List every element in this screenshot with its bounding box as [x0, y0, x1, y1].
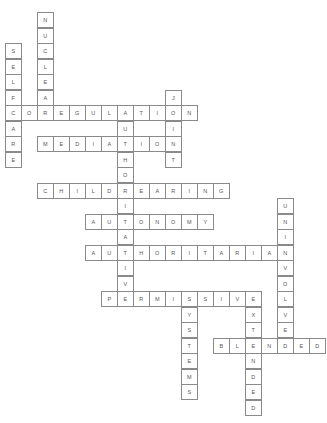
- crossword-cell[interactable]: R: [133, 291, 150, 307]
- crossword-cell[interactable]: I: [181, 245, 198, 261]
- crossword-cell[interactable]: A: [101, 136, 118, 152]
- crossword-cell[interactable]: T: [133, 105, 150, 121]
- crossword-cell[interactable]: Y: [181, 307, 198, 323]
- crossword-cell[interactable]: D: [245, 400, 262, 416]
- crossword-cell[interactable]: E: [133, 183, 150, 199]
- crossword-cell[interactable]: N: [261, 338, 278, 354]
- crossword-cell[interactable]: U: [85, 105, 102, 121]
- crossword-cell[interactable]: N: [277, 214, 294, 230]
- crossword-cell[interactable]: T: [165, 152, 182, 168]
- crossword-cell[interactable]: C: [5, 105, 22, 121]
- crossword-cell[interactable]: V: [229, 291, 246, 307]
- crossword-cell[interactable]: A: [149, 183, 166, 199]
- crossword-cell[interactable]: E: [245, 384, 262, 400]
- crossword-cell[interactable]: E: [53, 136, 70, 152]
- crossword-cell[interactable]: T: [117, 245, 134, 261]
- crossword-cell[interactable]: M: [37, 136, 54, 152]
- crossword-cell[interactable]: O: [149, 136, 166, 152]
- crossword-cell[interactable]: E: [245, 338, 262, 354]
- crossword-cell[interactable]: A: [261, 245, 278, 261]
- crossword-cell[interactable]: L: [277, 291, 294, 307]
- crossword-cell[interactable]: D: [69, 136, 86, 152]
- crossword-cell[interactable]: U: [117, 121, 134, 137]
- crossword-cell[interactable]: N: [37, 12, 54, 28]
- crossword-cell[interactable]: U: [101, 245, 118, 261]
- crossword-cell[interactable]: T: [245, 322, 262, 338]
- crossword-cell[interactable]: N: [245, 353, 262, 369]
- crossword-cell[interactable]: H: [53, 183, 70, 199]
- crossword-cell[interactable]: L: [5, 74, 22, 90]
- crossword-cell[interactable]: S: [181, 322, 198, 338]
- crossword-cell[interactable]: I: [149, 105, 166, 121]
- crossword-cell[interactable]: X: [245, 307, 262, 323]
- crossword-cell[interactable]: I: [165, 121, 182, 137]
- crossword-cell[interactable]: C: [37, 43, 54, 59]
- crossword-cell[interactable]: J: [165, 90, 182, 106]
- crossword-cell[interactable]: I: [133, 136, 150, 152]
- crossword-cell[interactable]: O: [133, 214, 150, 230]
- crossword-cell[interactable]: A: [117, 229, 134, 245]
- crossword-cell[interactable]: A: [5, 121, 22, 137]
- crossword-cell[interactable]: D: [277, 338, 294, 354]
- crossword-cell[interactable]: N: [149, 214, 166, 230]
- crossword-cell[interactable]: L: [229, 338, 246, 354]
- crossword-cell[interactable]: A: [85, 214, 102, 230]
- crossword-cell[interactable]: T: [181, 338, 198, 354]
- crossword-cell[interactable]: H: [117, 152, 134, 168]
- crossword-cell[interactable]: E: [293, 338, 310, 354]
- crossword-cell[interactable]: O: [149, 245, 166, 261]
- crossword-cell[interactable]: S: [5, 43, 22, 59]
- crossword-cell[interactable]: R: [165, 183, 182, 199]
- crossword-cell[interactable]: E: [245, 291, 262, 307]
- crossword-cell[interactable]: V: [277, 260, 294, 276]
- crossword-cell[interactable]: T: [197, 245, 214, 261]
- crossword-cell[interactable]: L: [37, 59, 54, 75]
- crossword-cell[interactable]: S: [181, 384, 198, 400]
- crossword-cell[interactable]: E: [181, 353, 198, 369]
- crossword-cell[interactable]: C: [37, 183, 54, 199]
- crossword-cell[interactable]: D: [309, 338, 326, 354]
- crossword-cell[interactable]: O: [21, 105, 38, 121]
- crossword-cell[interactable]: A: [117, 105, 134, 121]
- crossword-cell[interactable]: M: [181, 214, 198, 230]
- crossword-cell[interactable]: I: [85, 136, 102, 152]
- crossword-cell[interactable]: T: [117, 136, 134, 152]
- crossword-cell[interactable]: E: [117, 291, 134, 307]
- crossword-cell[interactable]: A: [37, 90, 54, 106]
- crossword-cell[interactable]: O: [117, 167, 134, 183]
- crossword-cell[interactable]: F: [5, 90, 22, 106]
- crossword-cell[interactable]: R: [165, 245, 182, 261]
- crossword-cell[interactable]: I: [245, 245, 262, 261]
- crossword-cell[interactable]: N: [181, 105, 198, 121]
- crossword-cell[interactable]: O: [277, 276, 294, 292]
- crossword-cell[interactable]: R: [117, 183, 134, 199]
- crossword-cell[interactable]: O: [165, 105, 182, 121]
- crossword-cell[interactable]: U: [37, 28, 54, 44]
- crossword-cell[interactable]: P: [101, 291, 118, 307]
- crossword-cell[interactable]: L: [85, 183, 102, 199]
- crossword-cell[interactable]: T: [117, 214, 134, 230]
- crossword-cell[interactable]: I: [181, 183, 198, 199]
- crossword-cell[interactable]: I: [117, 260, 134, 276]
- crossword-cell[interactable]: E: [37, 74, 54, 90]
- crossword-cell[interactable]: E: [5, 59, 22, 75]
- crossword-cell[interactable]: D: [101, 183, 118, 199]
- crossword-cell[interactable]: I: [165, 291, 182, 307]
- crossword-cell[interactable]: I: [117, 198, 134, 214]
- crossword-cell[interactable]: E: [5, 152, 22, 168]
- crossword-cell[interactable]: G: [213, 183, 230, 199]
- crossword-cell[interactable]: U: [101, 214, 118, 230]
- crossword-cell[interactable]: G: [69, 105, 86, 121]
- crossword-cell[interactable]: U: [277, 198, 294, 214]
- crossword-cell[interactable]: L: [101, 105, 118, 121]
- crossword-cell[interactable]: I: [213, 291, 230, 307]
- crossword-cell[interactable]: V: [117, 276, 134, 292]
- crossword-cell[interactable]: M: [149, 291, 166, 307]
- crossword-cell[interactable]: N: [197, 183, 214, 199]
- crossword-cell[interactable]: R: [229, 245, 246, 261]
- crossword-cell[interactable]: R: [5, 136, 22, 152]
- crossword-cell[interactable]: O: [165, 214, 182, 230]
- crossword-cell[interactable]: V: [277, 307, 294, 323]
- crossword-cell[interactable]: E: [53, 105, 70, 121]
- crossword-cell[interactable]: E: [277, 322, 294, 338]
